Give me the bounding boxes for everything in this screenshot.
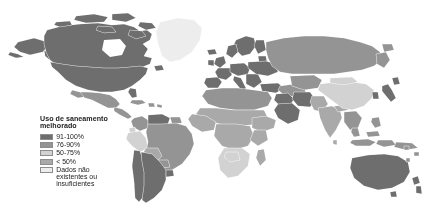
legend-swatch <box>40 167 53 173</box>
legend-swatch <box>40 134 53 140</box>
legend-label: Dados não existentes ou insuficientes <box>56 166 97 187</box>
legend-entry: < 50% <box>40 158 126 165</box>
legend-label: 50-75% <box>56 149 80 156</box>
map-legend: Uso de saneamento melhorado 91-100%76-90… <box>40 116 126 188</box>
legend-entry: Dados não existentes ou insuficientes <box>40 166 126 187</box>
legend-title: Uso de saneamento melhorado <box>40 116 126 130</box>
legend-entry: 91-100% <box>40 133 126 140</box>
legend-swatch <box>40 142 53 148</box>
legend-swatch <box>40 159 53 165</box>
legend-entry: 50-75% <box>40 149 126 156</box>
legend-label: 76-90% <box>56 141 80 148</box>
legend-entry-list: 91-100%76-90%50-75%< 50%Dados não existe… <box>40 133 126 187</box>
legend-entry: 76-90% <box>40 141 126 148</box>
map-figure: Uso de saneamento melhorado 91-100%76-90… <box>0 0 422 220</box>
legend-label: 91-100% <box>56 133 84 140</box>
legend-swatch <box>40 150 53 156</box>
legend-label: < 50% <box>56 158 76 165</box>
